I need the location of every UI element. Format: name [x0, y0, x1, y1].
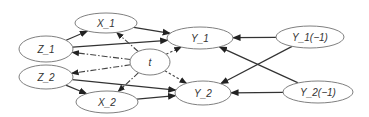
node-label: Y_2(−1) [300, 87, 336, 98]
causal-diagram: Z_1Z_2X_1X_2tY_1Y_2Y_1(−1)Y_2(−1) [0, 0, 369, 117]
node-label: Z_1 [36, 44, 54, 55]
node-label: Y_1 [191, 33, 209, 44]
node-label: Z_2 [36, 72, 55, 83]
edge-z-1-to-x-1 [66, 31, 87, 40]
edge-z-2-to-x-2 [66, 85, 87, 94]
node-y-2-lag: Y_2(−1) [283, 81, 353, 103]
edge-t-to-z-2 [72, 65, 131, 74]
node-label: X_2 [97, 97, 116, 108]
edge-x-2-to-y-2 [137, 96, 176, 100]
edge-y-2-lag-to-y-1 [219, 47, 298, 83]
edge-x-1-to-y-1 [134, 27, 170, 33]
edge-z-1-to-y-1 [73, 40, 168, 47]
node-y-2: Y_2 [175, 81, 231, 105]
edge-y-2-lag-to-y-2 [231, 92, 283, 93]
node-x-1: X_1 [75, 13, 137, 33]
node-label: Y_2 [194, 88, 212, 99]
node-label: X_1 [96, 18, 115, 29]
nodes-layer: Z_1Z_2X_1X_2tY_1Y_2Y_1(−1)Y_2(−1) [19, 13, 353, 113]
node-z-2: Z_2 [19, 65, 73, 89]
edge-t-to-y-1 [166, 47, 181, 54]
edge-z-2-to-y-2 [72, 80, 176, 91]
node-z-1: Z_1 [19, 36, 73, 62]
node-y-1: Y_1 [167, 27, 233, 49]
node-label: Y_1(−1) [292, 32, 328, 43]
node-x-2: X_2 [76, 91, 138, 113]
node-y-1-lag: Y_1(−1) [276, 26, 344, 48]
node-t: t [130, 49, 170, 75]
edge-t-to-x-2 [118, 73, 139, 92]
edge-t-to-z-1 [72, 52, 130, 59]
edge-t-to-y-2 [165, 71, 187, 84]
edge-t-to-x-1 [117, 32, 139, 51]
